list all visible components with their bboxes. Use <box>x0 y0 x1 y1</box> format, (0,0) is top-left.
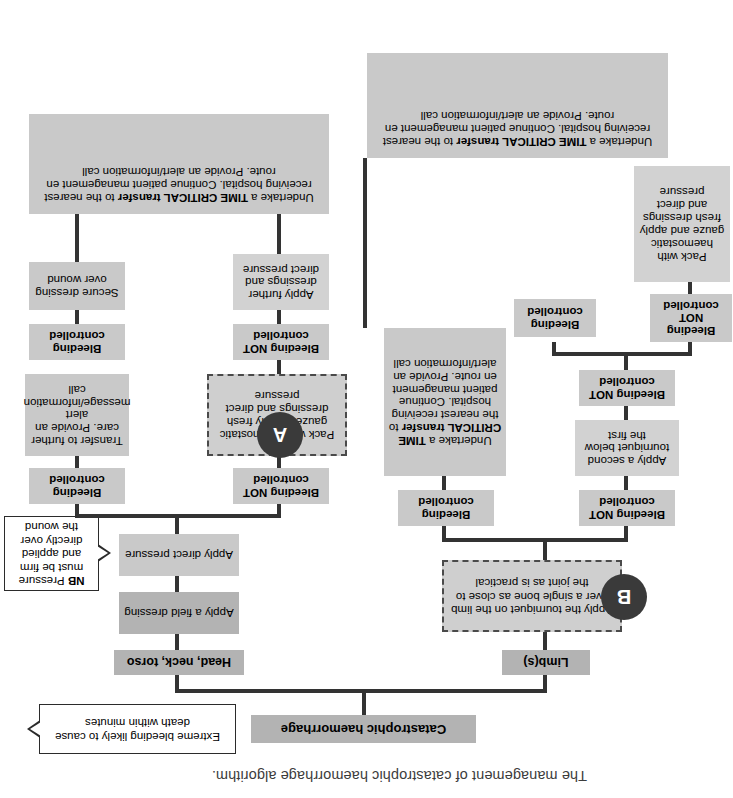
connector-limbs-to-final <box>363 158 367 284</box>
connector-field-dressing-to-pressure <box>175 576 179 592</box>
node-head-neck-torso: Head, neck, torso <box>114 650 244 675</box>
final-transfer-text-right: Undertake a TIME CRITICAL transfer to th… <box>33 165 325 204</box>
node-apply-direct-pressure: Apply direct pressure <box>119 534 239 576</box>
connector-root-split <box>175 689 547 693</box>
connector-limbs-second-right <box>552 342 556 356</box>
page-title: The management of catastrophic haemorrha… <box>212 768 587 784</box>
connector-limbs-split <box>442 538 628 542</box>
node-head-final-transfer: Undertake a TIME CRITICAL transfer to th… <box>29 114 329 214</box>
node-head-second-controlled: Bleeding controlled <box>29 324 125 360</box>
connector-head-split-right <box>75 504 79 518</box>
marker-a-icon: A <box>257 412 303 458</box>
connector-limbs-second-split <box>552 352 692 356</box>
connector-head-second-nc-stem <box>277 310 281 324</box>
callout-nb-tail-inner-icon <box>97 547 108 561</box>
connector-limbs-second-split-stem <box>624 356 628 370</box>
connector-second-tourniquet-stem <box>624 406 628 420</box>
connector-head-split-left <box>277 504 281 518</box>
transfer-text-inner: Undertake a TIME CRITICAL transfer to th… <box>388 357 502 447</box>
marker-b-icon: B <box>601 574 647 620</box>
node-head-second-not-controlled: Bleeding NOT controlled <box>233 324 329 360</box>
flowchart-canvas: The management of catastrophic haemorrha… <box>0 0 733 798</box>
node-limbs-third-controlled: Bleeding controlled <box>514 299 596 337</box>
callout-text: Extreme bleeding likely to cause death w… <box>46 715 229 742</box>
connector-limbs-to-markerB <box>543 632 547 650</box>
connector-head-split <box>75 514 281 518</box>
callout-nb-text: NB Pressure must be firm and applied dir… <box>11 520 92 588</box>
connector-limbs-split-right <box>442 526 446 542</box>
connector-limbs-second-left <box>688 342 692 356</box>
callout-catastrophic-haemorrhage: Extreme bleeding likely to cause death w… <box>39 704 236 754</box>
node-limbs-controlled-transfer: Undertake a TIME CRITICAL transfer to th… <box>384 328 506 476</box>
node-limbs-bleeding-controlled: Bleeding controlled <box>398 490 494 526</box>
connector-root-stem <box>362 693 366 715</box>
node-apply-field-dressing: Apply a field dressing <box>119 592 239 634</box>
connector-limbs-nc-stem <box>624 476 628 490</box>
connector-markerA-stem <box>277 360 281 374</box>
node-apply-further-dressings: Apply further dressings and direct press… <box>233 254 329 310</box>
connector-head-split-stem <box>175 518 179 534</box>
callout-nb-pressure: NB Pressure must be firm and applied dir… <box>4 516 99 591</box>
connector-limbs-third-nc-stem <box>688 282 692 294</box>
node-head-transfer-further-care: Transfer to further care. Provide an ale… <box>25 374 129 456</box>
connector-limbs-c-stem <box>442 476 446 490</box>
node-limbs-second-not-controlled: Bleeding NOT controlled <box>579 370 675 406</box>
connector-markerB-stem <box>543 542 547 560</box>
node-head-bleeding-not-controlled: Bleeding NOT controlled <box>233 468 329 504</box>
node-limbs-third-not-controlled: Bleeding NOT controlled <box>650 294 732 342</box>
connector-head-to-field-dressing <box>175 634 179 650</box>
connector-head-second-c-stem <box>75 310 79 324</box>
connector-head-c-stem <box>75 456 79 468</box>
connector-secure-dressing-up <box>75 214 79 262</box>
callout-tail-inner-icon <box>30 722 41 736</box>
node-pack-haemostatic-gauze-limb: Pack with haemostatic gauze and apply fr… <box>634 166 730 282</box>
connector-to-limbs <box>543 675 547 693</box>
connector-further-dressings-up <box>277 214 281 254</box>
node-marker-b-box: Apply the tourniquet on the limb over a … <box>442 560 622 632</box>
node-apply-second-tourniquet: Apply a second tourniquet below the firs… <box>575 420 679 476</box>
node-limbs-bleeding-not-controlled: Bleeding NOT controlled <box>579 490 675 526</box>
node-catastrophic-haemorrhage: Catastrophic haemorrhage <box>251 715 476 743</box>
connector-limbs-final-riser <box>363 284 367 328</box>
node-secure-dressing-over-wound: Secure dressing over wound <box>29 262 125 310</box>
connector-to-head <box>175 675 179 693</box>
connector-limbs-split-left <box>624 526 628 542</box>
node-head-bleeding-controlled: Bleeding controlled <box>29 468 125 504</box>
final-transfer-text-left: Undertake a TIME CRITICAL transfer to th… <box>371 109 664 148</box>
node-limbs-final-transfer: Undertake a TIME CRITICAL transfer to th… <box>367 53 668 158</box>
node-limbs: Limb(s) <box>502 650 590 675</box>
